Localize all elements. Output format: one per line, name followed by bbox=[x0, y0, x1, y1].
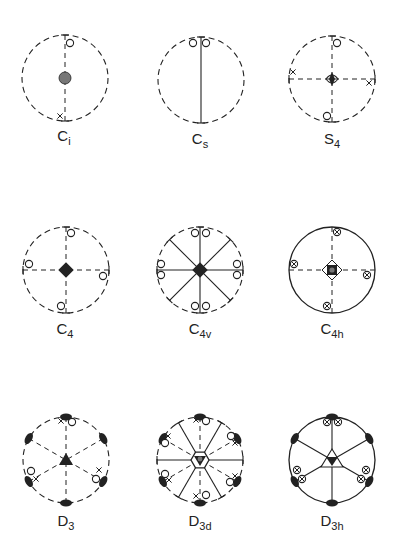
upper-pole-icon bbox=[161, 439, 168, 446]
projection-cs bbox=[158, 37, 244, 123]
point-group-label-s4: S4 bbox=[324, 131, 340, 150]
lower-pole-icon bbox=[193, 493, 198, 498]
label-symbol: D bbox=[320, 512, 331, 529]
upper-pole-icon bbox=[66, 39, 73, 46]
inversion-center-icon bbox=[59, 72, 71, 84]
label-symbol: S bbox=[324, 130, 334, 147]
upper-pole-icon bbox=[189, 39, 196, 46]
upper-pole-icon bbox=[157, 271, 164, 278]
point-group-label-d3d: D3d bbox=[188, 513, 211, 532]
upper-pole-icon bbox=[227, 432, 234, 439]
upper-pole-icon bbox=[191, 302, 198, 309]
upper-pole-icon bbox=[202, 417, 209, 424]
projection-c4h bbox=[289, 227, 375, 313]
upper-pole-icon bbox=[333, 39, 340, 46]
upper-pole-icon bbox=[323, 112, 330, 119]
point-group-label-c4v: C4v bbox=[189, 321, 211, 340]
label-subscript: 4v bbox=[200, 328, 212, 340]
twofold-axis-icon bbox=[326, 500, 338, 507]
label-subscript: 3h bbox=[331, 520, 343, 532]
lower-pole-icon bbox=[366, 80, 371, 85]
end-tick bbox=[175, 495, 182, 499]
projection-c4v bbox=[157, 227, 243, 313]
projection-ci bbox=[22, 35, 108, 121]
fourfold-axis-icon bbox=[58, 262, 74, 278]
label-subscript: 4 bbox=[67, 328, 73, 340]
twofold-axis-icon bbox=[97, 432, 109, 446]
end-tick bbox=[218, 495, 225, 499]
point-group-label-c4: C4 bbox=[57, 321, 74, 340]
upper-pole-icon bbox=[57, 302, 64, 309]
lower-pole-icon bbox=[57, 113, 62, 118]
upper-pole-icon bbox=[226, 478, 233, 485]
projection-d3d bbox=[157, 414, 243, 507]
upper-pole-icon bbox=[233, 260, 240, 267]
twofold-axis-icon bbox=[363, 475, 375, 489]
lower-pole-icon bbox=[290, 69, 295, 74]
point-group-label-ci: Ci bbox=[57, 128, 70, 147]
inversion-center-icon bbox=[329, 267, 334, 272]
upper-pole-icon bbox=[67, 229, 74, 236]
end-tick bbox=[175, 421, 182, 425]
point-group-label-d3h: D3h bbox=[320, 513, 343, 532]
upper-pole-icon bbox=[202, 229, 209, 236]
label-symbol: C bbox=[57, 320, 68, 337]
label-symbol: C bbox=[57, 127, 68, 144]
twofold-axis-icon bbox=[289, 432, 301, 446]
projection-c4 bbox=[23, 227, 109, 313]
twofold-axis-icon bbox=[23, 432, 35, 446]
upper-pole-icon bbox=[202, 491, 209, 498]
upper-pole-icon bbox=[92, 475, 99, 482]
lower-pole-icon bbox=[232, 473, 237, 478]
label-subscript: 3d bbox=[199, 520, 211, 532]
point-group-label-c4h: C4h bbox=[320, 321, 343, 340]
twofold-axis-icon bbox=[23, 475, 35, 489]
upper-pole-icon bbox=[233, 271, 240, 278]
end-tick bbox=[218, 421, 225, 425]
point-group-label-d3: D3 bbox=[58, 513, 75, 532]
label-symbol: C bbox=[192, 130, 203, 147]
inversion-center-icon bbox=[198, 457, 203, 462]
lower-pole-icon bbox=[58, 418, 63, 423]
label-symbol: C bbox=[320, 320, 331, 337]
upper-pole-icon bbox=[202, 39, 209, 46]
label-subscript: 4 bbox=[334, 138, 340, 150]
twofold-inner-icon bbox=[329, 72, 335, 86]
projection-s4 bbox=[289, 36, 375, 122]
upper-pole-icon bbox=[202, 302, 209, 309]
upper-pole-icon bbox=[68, 418, 75, 425]
threefold-axis-icon bbox=[59, 453, 73, 465]
upper-pole-icon bbox=[161, 470, 168, 477]
upper-pole-icon bbox=[157, 260, 164, 267]
label-subscript: s bbox=[203, 138, 209, 150]
label-symbol: D bbox=[58, 512, 69, 529]
point-group-figure bbox=[0, 0, 396, 551]
label-symbol: C bbox=[189, 320, 200, 337]
label-symbol: D bbox=[188, 512, 199, 529]
upper-pole-icon bbox=[99, 272, 106, 279]
projection-d3h bbox=[289, 414, 375, 507]
label-subscript: i bbox=[68, 135, 70, 147]
twofold-axis-icon bbox=[194, 500, 206, 507]
lower-pole-icon bbox=[166, 477, 171, 482]
lower-pole-icon bbox=[96, 467, 101, 472]
projection-d3 bbox=[23, 414, 109, 507]
point-group-label-cs: Cs bbox=[192, 131, 208, 150]
twofold-axis-icon bbox=[60, 500, 72, 507]
upper-pole-icon bbox=[27, 467, 34, 474]
upper-pole-icon bbox=[25, 260, 32, 267]
lower-pole-icon bbox=[33, 476, 38, 481]
label-subscript: 4h bbox=[331, 328, 343, 340]
upper-pole-icon bbox=[191, 229, 198, 236]
twofold-axis-icon bbox=[363, 432, 375, 446]
label-subscript: 3 bbox=[68, 520, 74, 532]
